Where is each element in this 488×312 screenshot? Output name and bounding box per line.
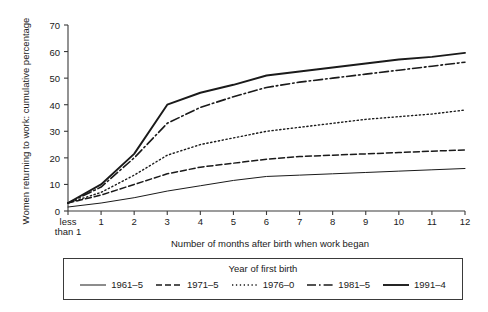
axes	[64, 25, 465, 215]
chart-figure: Women returning to work: cumulative perc…	[0, 0, 488, 312]
series-line	[68, 62, 465, 203]
legend-item: 1981–5	[307, 279, 370, 290]
legend-swatch-icon	[383, 281, 409, 289]
legend-swatch-icon	[156, 281, 182, 289]
series-line	[68, 168, 465, 207]
legend-item: 1971–5	[156, 279, 219, 290]
series-line	[68, 53, 465, 203]
legend-swatch-icon	[232, 281, 258, 289]
legend-title: Year of first birth	[64, 263, 462, 274]
legend-item-label: 1971–5	[187, 279, 219, 290]
legend-item-label: 1981–5	[338, 279, 370, 290]
legend-item-label: 1961–5	[111, 279, 143, 290]
legend-item: 1991–4	[383, 279, 446, 290]
legend-swatch-icon	[307, 281, 333, 289]
legend-item: 1961–5	[80, 279, 143, 290]
data-series-group	[68, 53, 465, 207]
legend-swatch-icon	[80, 281, 106, 289]
legend-items: 1961–51971–51976–01981–51991–4	[64, 279, 462, 290]
x-axis-label: Number of months after birth when work b…	[60, 238, 480, 249]
legend-item-label: 1991–4	[414, 279, 446, 290]
legend-item-label: 1976–0	[263, 279, 295, 290]
legend: Year of first birth 1961–51971–51976–019…	[63, 258, 463, 300]
legend-item: 1976–0	[232, 279, 295, 290]
series-line	[68, 110, 465, 203]
